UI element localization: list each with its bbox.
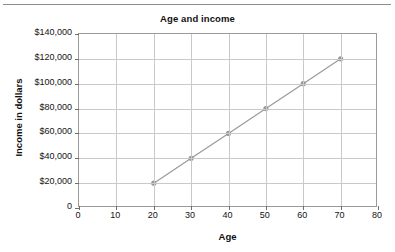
y-axis-tick: [75, 34, 79, 35]
top-divider-rule: [3, 4, 391, 5]
y-axis-tick: [75, 158, 79, 159]
chart-title: Age and income: [0, 13, 395, 24]
gridline-vertical: [303, 34, 304, 206]
x-axis-tick-label: 40: [208, 210, 248, 220]
gridline-vertical: [341, 34, 342, 206]
x-axis-tick: [191, 206, 192, 210]
x-axis-tick-label: 30: [170, 210, 210, 220]
gridline-horizontal: [79, 133, 376, 134]
y-axis-tick-label: 0: [8, 201, 72, 211]
y-axis-title: Income in dollars: [13, 43, 24, 193]
gridline-horizontal: [79, 158, 376, 159]
gridline-vertical: [154, 34, 155, 206]
x-axis-tick: [341, 206, 342, 210]
y-axis-tick: [75, 183, 79, 184]
y-axis-tick: [75, 84, 79, 85]
x-axis-tick-label: 0: [58, 210, 98, 220]
y-axis-tick: [75, 133, 79, 134]
x-axis-tick-label: 80: [357, 210, 395, 220]
gridline-horizontal: [79, 183, 376, 184]
gridline-horizontal: [79, 59, 376, 60]
x-axis-tick-label: 20: [133, 210, 173, 220]
gridline-horizontal: [79, 84, 376, 85]
y-axis-tick: [75, 59, 79, 60]
x-axis-tick-label: 70: [320, 210, 360, 220]
y-axis-tick-label: $140,000: [8, 27, 72, 37]
x-axis-tick: [266, 206, 267, 210]
gridline-vertical: [116, 34, 117, 206]
gridline-vertical: [229, 34, 230, 206]
y-axis-tick: [75, 109, 79, 110]
x-axis-tick-label: 10: [95, 210, 135, 220]
x-axis-tick: [378, 206, 379, 210]
gridline-vertical: [191, 34, 192, 206]
x-axis-tick-label: 50: [245, 210, 285, 220]
x-axis-tick: [154, 206, 155, 210]
gridline-vertical: [266, 34, 267, 206]
x-axis-title: Age: [78, 231, 377, 242]
data-line: [154, 59, 341, 183]
x-axis-tick-label: 60: [282, 210, 322, 220]
x-axis-tick: [116, 206, 117, 210]
plot-area: [78, 33, 377, 207]
gridline-horizontal: [79, 109, 376, 110]
x-axis-tick: [303, 206, 304, 210]
x-axis-tick: [229, 206, 230, 210]
chart-figure: Age and income Income in dollars 0$20,00…: [0, 0, 395, 252]
x-axis-tick: [79, 206, 80, 210]
